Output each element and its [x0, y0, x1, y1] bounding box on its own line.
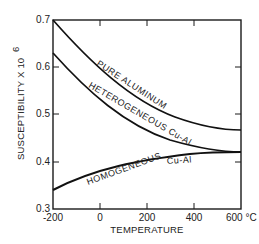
y-tick-label: 0.3 [36, 203, 50, 214]
y-tick-label: 0.7 [36, 14, 50, 25]
x-tick-label: 400 [186, 212, 203, 223]
x-tick-label: 600 °C [226, 212, 257, 223]
x-axis-title: TEMPERATURE [110, 224, 183, 235]
y-axis-title: SUSCEPTIBILITY X 10 6 [10, 47, 26, 160]
y-tick-label: 0.5 [36, 108, 50, 119]
y-axis-title-text: SUSCEPTIBILITY X 10 [15, 58, 26, 160]
label-homogeneous: HOMOGENEOUS [85, 151, 162, 187]
susceptibility-chart: -200 0 200 400 600 °C 0.3 0.4 0.5 0.6 0.… [0, 0, 259, 244]
label-homogeneous-cu-al: Cu-Al [166, 154, 192, 166]
x-tick-label: 200 [139, 212, 156, 223]
y-axis-exponent: 6 [10, 47, 21, 52]
y-tick-label: 0.4 [36, 156, 50, 167]
x-tick-label: 0 [97, 212, 103, 223]
y-tick-label: 0.6 [36, 61, 50, 72]
